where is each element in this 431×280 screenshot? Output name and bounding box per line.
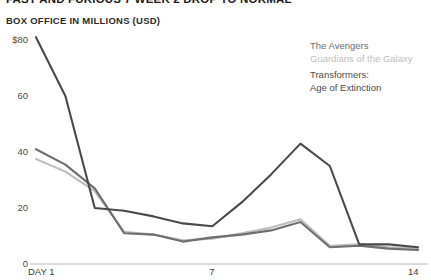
y-tick-label: $80 — [2, 34, 28, 45]
y-tick-label: 20 — [2, 202, 28, 213]
x-tick-label: 14 — [408, 266, 419, 277]
y-tick-label: 60 — [2, 90, 28, 101]
chart-plot-area — [0, 0, 431, 280]
x-tick-label: 7 — [209, 266, 214, 277]
series-line-transformers-age-of-extinction — [36, 37, 418, 247]
y-tick-label: 40 — [2, 146, 28, 157]
x-tick-label: DAY 1 — [28, 266, 55, 277]
chart-container: FAST AND FURIOUS 7 WEEK 2 DROP TO NORMAL… — [0, 0, 431, 280]
y-tick-label: 0 — [2, 258, 28, 269]
